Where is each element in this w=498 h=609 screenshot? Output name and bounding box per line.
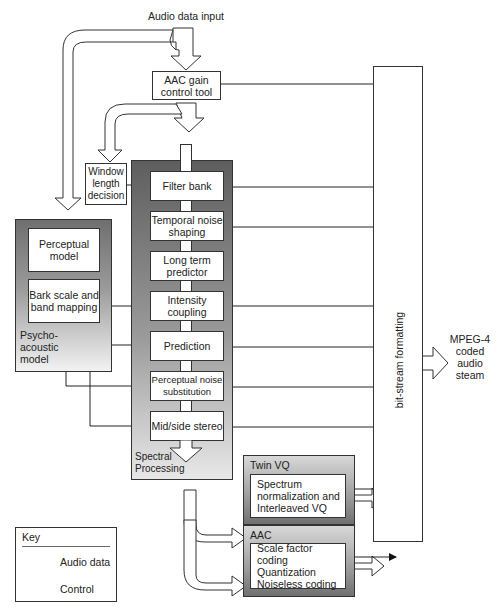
aac-label: AAC: [250, 529, 272, 541]
output-label: MPEG-4 coded audio steam: [446, 333, 494, 381]
twin-vq-label: Twin VQ: [250, 459, 290, 471]
window-length-box: Window length decision: [85, 163, 127, 205]
key-audio-data: Audio data: [60, 556, 110, 568]
aac-box: Scale factor coding Quantization Noisele…: [250, 543, 346, 589]
prediction-box: Prediction: [150, 331, 224, 361]
key-title: Key: [22, 531, 110, 543]
filter-bank-box: Filter bank: [150, 171, 224, 201]
bitstream-formatting-box: [373, 66, 423, 542]
bark-scale-box: Bark scale and band mapping: [28, 279, 100, 323]
mid-side-stereo-box: Mid/side stereo: [150, 411, 224, 441]
intensity-coupling-box: Intensity coupling: [150, 291, 224, 321]
audio-input-label: Audio data input: [148, 10, 224, 22]
spectral-label: Spectral Processing: [135, 451, 180, 475]
noise-substitution-box: Perceptual noise substitution: [150, 371, 224, 401]
perceptual-model-box: Perceptual model: [28, 228, 100, 272]
psychoacoustic-label: Psycho-acoustic model: [20, 329, 70, 365]
bitstream-label: bit-stream formatting: [393, 306, 405, 414]
gain-control-box: AAC gain control tool: [152, 71, 221, 100]
twin-vq-box: Spectrum normalization and Interleaved V…: [250, 474, 346, 518]
temporal-noise-box: Temporal noise shaping: [150, 211, 224, 241]
long-term-predictor-box: Long term predictor: [150, 251, 224, 281]
key-control: Control: [60, 583, 94, 595]
